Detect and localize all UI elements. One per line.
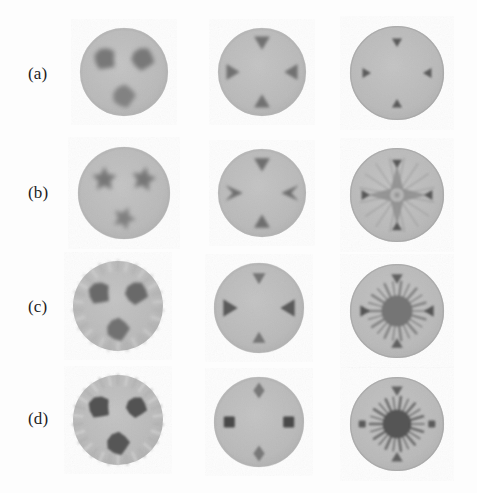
row-label-b: (b) <box>28 183 48 203</box>
phantom-panel <box>336 363 458 485</box>
row-label-c: (c) <box>28 297 47 317</box>
row-label-a: (a) <box>28 64 47 84</box>
row-label-d: (d) <box>28 409 48 429</box>
phantom-inclusion <box>224 417 235 428</box>
phantom-panel <box>204 14 320 130</box>
phantom-panel <box>66 14 182 130</box>
phantom-inclusion <box>283 417 294 428</box>
figure-image-grid: (a) (b) (c) (d) <box>0 0 477 493</box>
phantom-inclusion <box>428 421 435 428</box>
phantom-inclusion <box>359 421 366 428</box>
phantom-panel <box>59 361 177 479</box>
phantom-panel <box>204 135 320 251</box>
phantom-panel <box>200 363 318 481</box>
phantom-panel <box>336 134 458 256</box>
phantom-panel <box>59 247 177 365</box>
phantom-panel <box>200 249 318 367</box>
phantom-panel <box>64 133 184 253</box>
phantom-panel <box>336 12 458 134</box>
phantom-panel <box>336 250 458 372</box>
